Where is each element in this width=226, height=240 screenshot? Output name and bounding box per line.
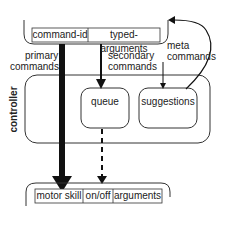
controller-label: controller (8, 85, 19, 135)
meta-label-1: meta (167, 40, 189, 51)
field-on-off: on/off (83, 189, 113, 203)
field-arguments: arguments (113, 189, 162, 203)
meta-label-2: commands (167, 51, 216, 62)
queue-label: queue (81, 95, 129, 109)
field-command-id: command-id (32, 28, 88, 42)
secondary-label-1: secondary (108, 50, 154, 61)
primary-label-2: commands (10, 61, 59, 72)
primary-label-1: primary (25, 50, 58, 61)
suggestions-label: suggestions (139, 95, 197, 109)
field-motor-skill: motor skill (35, 189, 83, 203)
secondary-label-2: commands (108, 61, 157, 72)
